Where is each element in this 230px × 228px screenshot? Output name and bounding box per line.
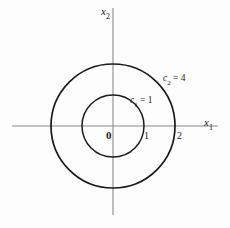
y-axis-label-subscript: 2 [106, 12, 110, 21]
outer-contour-value: = 4 [171, 73, 186, 83]
x-tick-label-1: 1 [144, 131, 149, 141]
y-axis-label: x2 [101, 6, 110, 20]
x-tick-label-2: 2 [177, 131, 182, 141]
x-axis-label: x1 [204, 117, 213, 131]
outer-contour-label: c2 = 4 [163, 74, 186, 86]
contour-figure: x2 x1 0 1 2 c1 = 1 c2 = 4 [0, 0, 230, 228]
inner-contour-subscript: 1 [134, 101, 138, 109]
inner-contour-value: = 1 [138, 95, 153, 105]
origin-label: 0 [106, 130, 112, 141]
plot-canvas [0, 0, 230, 228]
x-axis-label-subscript: 1 [209, 123, 213, 132]
outer-contour-subscript: 2 [167, 79, 171, 87]
inner-contour-label: c1 = 1 [130, 96, 153, 108]
